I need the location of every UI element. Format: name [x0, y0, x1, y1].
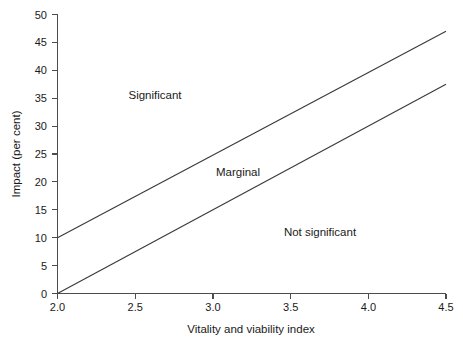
y-tick-label-25: 25: [35, 148, 47, 160]
region-label-not-significant: Not significant: [284, 226, 357, 238]
x-tick-label-3-0: 3.0: [205, 301, 220, 313]
x-axis-tick-labels: 2.0 2.5 3.0 3.5 4.0 4.5: [50, 301, 454, 313]
upper-threshold-line: [58, 31, 447, 237]
chart-canvas: 0 5 10 15 20 25 30 35 40 45 50 2.0 2.5 3…: [0, 0, 463, 349]
axis-lines: [57, 14, 446, 294]
x-axis-title: Vitality and viability index: [187, 323, 315, 335]
y-tick-label-40: 40: [35, 64, 47, 76]
data-series-group: [58, 31, 447, 293]
y-axis-ticks: [52, 15, 57, 294]
y-tick-label-20: 20: [35, 176, 47, 188]
x-axis-ticks: [58, 294, 447, 299]
x-tick-label-2-0: 2.0: [50, 301, 65, 313]
y-tick-label-0: 0: [41, 288, 47, 300]
y-tick-label-45: 45: [35, 36, 47, 48]
y-tick-label-50: 50: [35, 9, 47, 21]
region-label-marginal: Marginal: [216, 166, 260, 178]
y-axis-title: Impact (per cent): [10, 110, 22, 197]
y-axis-tick-labels: 0 5 10 15 20 25 30 35 40 45 50: [35, 9, 47, 300]
y-tick-label-35: 35: [35, 92, 47, 104]
y-tick-label-10: 10: [35, 232, 47, 244]
y-tick-label-30: 30: [35, 120, 47, 132]
region-annotations: Significant Marginal Not significant: [128, 89, 356, 238]
x-tick-label-3-5: 3.5: [283, 301, 298, 313]
y-tick-label-15: 15: [35, 204, 47, 216]
y-tick-label-5: 5: [41, 260, 47, 272]
x-tick-label-4-0: 4.0: [361, 301, 376, 313]
region-label-significant: Significant: [128, 89, 182, 101]
chart-figure: 0 5 10 15 20 25 30 35 40 45 50 2.0 2.5 3…: [0, 0, 463, 349]
x-tick-label-2-5: 2.5: [128, 301, 143, 313]
lower-threshold-line: [58, 84, 447, 293]
x-tick-label-4-5: 4.5: [438, 301, 453, 313]
